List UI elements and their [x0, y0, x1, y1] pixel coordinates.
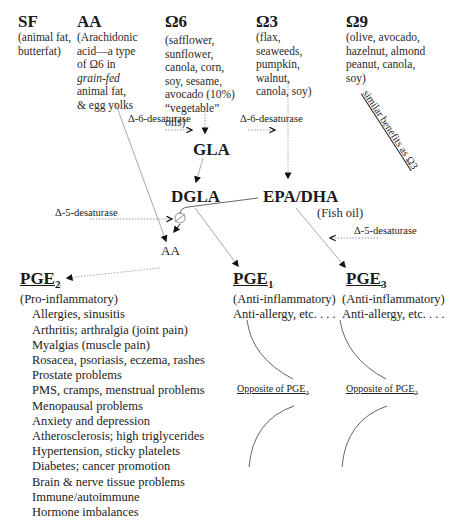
effect-item: Allergies, sinusitis — [32, 307, 205, 322]
effect-item: Hormone imbalances — [32, 505, 205, 520]
node-epa-dha: EPA/DHA — [263, 187, 338, 207]
source-sf-line: butterfat) — [18, 45, 71, 59]
node-fish-oil: (Fish oil) — [317, 207, 363, 221]
pge1-title: PGE1 — [233, 269, 336, 290]
source-omega3-line: pumpkin, — [256, 58, 312, 72]
effect-item: Immune/autoimmune — [32, 490, 205, 505]
source-omega6-line: canola, corn, — [165, 61, 235, 75]
pge1-block: PGE1 (Anti-inflammatory) Anti-allergy, e… — [233, 269, 336, 322]
source-omega3-line: canola, soy) — [256, 85, 312, 99]
pge2-type: (Pro-inflammatory) — [20, 292, 205, 307]
source-aa: AA (Arachidonic acid—a type of Ω6 in gra… — [77, 13, 138, 113]
effect-item: Menopausal problems — [32, 399, 205, 414]
arrow-dgla-to-aa — [174, 224, 180, 232]
effect-item: Prostate problems — [32, 368, 205, 383]
pge3-type: (Anti-inflammatory) — [342, 292, 445, 307]
node-gla: GLA — [193, 140, 230, 160]
effect-item: Arthritis; arthralgia (joint pain) — [32, 323, 205, 338]
effect-item: Anxiety and depression — [32, 414, 205, 429]
pge2-block: PGE2 (Pro-inflammatory) Allergies, sinus… — [20, 269, 205, 520]
pge1-effect: Anti-allergy, etc. . . . — [233, 307, 336, 322]
source-omega9-line: soy) — [346, 72, 425, 86]
source-sf: SF (animal fat, butterfat) — [18, 13, 71, 58]
source-omega3-line: walnut, — [256, 72, 312, 86]
effect-item: Rosacea, psoriasis, eczema, rashes — [32, 353, 205, 368]
pge3-curve-top — [340, 320, 386, 379]
pge3-curve-bottom — [342, 406, 387, 467]
source-omega6-line: soy, sesame, — [165, 75, 235, 89]
pge1-curve-top — [247, 320, 293, 379]
source-omega9-line: hazelnut, almond — [346, 45, 425, 59]
source-omega3: Ω3 (flax, seaweeds, pumpkin, walnut, can… — [256, 13, 312, 99]
enzyme-d5-right: Δ-5-desaturase — [354, 225, 417, 236]
source-omega6-line: (safflower, — [165, 34, 235, 48]
source-omega9-line: peanut, canola, — [346, 58, 425, 72]
source-omega6-line: sunflower, — [165, 48, 235, 62]
source-aa-line: (Arachidonic — [77, 31, 138, 45]
source-omega9-title: Ω9 — [346, 13, 425, 31]
pge1-opposite: Opposite of PGE2 — [237, 383, 309, 397]
source-omega9-line: (olive, avocado, — [346, 31, 425, 45]
source-sf-title: SF — [18, 13, 71, 31]
source-omega6: Ω6 (safflower, sunflower, canola, corn, … — [165, 13, 235, 129]
pge1-type: (Anti-inflammatory) — [233, 292, 336, 307]
effect-item: Hypertension, sticky platelets — [32, 444, 205, 459]
pge2-title: PGE2 — [20, 269, 205, 290]
enzyme-d6-right: Δ-6-desaturase — [240, 113, 303, 124]
node-aa: AA — [161, 243, 180, 259]
pge3-title: PGE3 — [346, 269, 445, 290]
source-omega3-line: (flax, — [256, 31, 312, 45]
source-aa-title: AA — [77, 13, 138, 31]
source-aa-line: of Ω6 in — [77, 58, 138, 72]
arrow-gla-to-dgla — [196, 158, 203, 182]
pge2-effects-list: Allergies, sinusitis Arthritis; arthralg… — [20, 307, 205, 520]
source-sf-line: (animal fat, — [18, 31, 71, 45]
source-omega6-title: Ω6 — [165, 13, 235, 31]
source-omega3-line: seaweeds, — [256, 45, 312, 59]
source-aa-line: grain-fed — [77, 72, 138, 86]
effect-item: Atherosclerosis; high triglycerides — [32, 429, 205, 444]
source-omega3-title: Ω3 — [256, 13, 312, 31]
arrow-dgla-to-pge1 — [195, 208, 238, 266]
source-aa-line: & egg yolks — [77, 99, 138, 113]
pge3-block: PGE3 (Anti-inflammatory) Anti-allergy, e… — [346, 269, 445, 322]
node-dgla: DGLA — [171, 187, 220, 207]
source-omega6-line: avocado (10%) — [165, 88, 235, 102]
enzyme-d6-left: Δ-6-desaturase — [128, 113, 191, 124]
effect-item: Brain & nerve tissue problems — [32, 475, 205, 490]
effect-item: Diabetes; cancer promotion — [32, 459, 205, 474]
source-aa-line: acid—a type — [77, 45, 138, 59]
pge3-effect: Anti-allergy, etc. . . . — [342, 307, 445, 322]
pge3-opposite: Opposite of PGE2 — [346, 383, 418, 397]
pge1-curve-bottom — [249, 406, 294, 467]
effect-item: Myalgias (muscle pain) — [32, 338, 205, 353]
source-omega9: Ω9 (olive, avocado, hazelnut, almond pea… — [346, 13, 425, 85]
source-aa-line: animal fat, — [77, 85, 138, 99]
effect-item: PMS, cramps, menstrual problems — [32, 383, 205, 398]
enzyme-d5-left: Δ-5-desaturase — [55, 207, 118, 218]
